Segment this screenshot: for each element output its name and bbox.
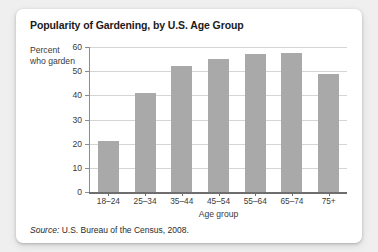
x-tick-label-25-34: 25–34 (127, 196, 164, 206)
y-axis-title-line-2: who garden (30, 56, 75, 67)
y-tick-label-20: 20 (72, 139, 82, 149)
bar-55-64 (245, 54, 266, 192)
x-tick-label-65-74: 65–74 (274, 196, 311, 206)
bar-25-34 (135, 93, 156, 192)
y-tick-label-30: 30 (72, 115, 82, 125)
bars-layer (90, 47, 347, 192)
bar-slot (163, 47, 200, 192)
bar-35-44 (171, 66, 192, 192)
y-tick-label-10: 10 (72, 163, 82, 173)
bar-slot (200, 47, 237, 192)
x-tick-label-35-44: 35–44 (163, 196, 200, 206)
x-axis-line (89, 192, 347, 194)
source-text: U.S. Bureau of the Census, 2008. (62, 225, 189, 235)
bar-45-54 (208, 59, 229, 192)
x-tick-label-55-64: 55–64 (237, 196, 274, 206)
chart-title: Popularity of Gardening, by U.S. Age Gro… (30, 19, 244, 31)
bar-slot (310, 47, 347, 192)
bar-18-24 (98, 141, 119, 192)
bar-slot (237, 47, 274, 192)
bar-65-74 (281, 53, 302, 192)
figure-card: Popularity of Gardening, by U.S. Age Gro… (16, 9, 362, 243)
x-tick-label-18-24: 18–24 (90, 196, 127, 206)
x-tick-labels: 18–24 25–34 35–44 45–54 55–64 65–74 75+ (90, 196, 347, 206)
bar-slot (127, 47, 164, 192)
plot-area: 60 50 40 30 20 10 0 (89, 47, 347, 193)
x-tick-label-45-54: 45–54 (200, 196, 237, 206)
y-tick-label-50: 50 (72, 66, 82, 76)
source-note: Source: U.S. Bureau of the Census, 2008. (30, 225, 189, 235)
y-tick-label-0: 0 (77, 187, 82, 197)
y-tick-label-60: 60 (72, 42, 82, 52)
source-label: Source: (30, 225, 59, 235)
x-axis-title: Age group (90, 209, 347, 219)
y-tick-label-40: 40 (72, 90, 82, 100)
bar-75-plus (318, 74, 339, 192)
x-tick-label-75-plus: 75+ (310, 196, 347, 206)
y-axis-title-line-1: Percent (30, 45, 75, 56)
bar-slot (90, 47, 127, 192)
y-axis-title: Percent who garden (30, 45, 75, 67)
bar-slot (274, 47, 311, 192)
